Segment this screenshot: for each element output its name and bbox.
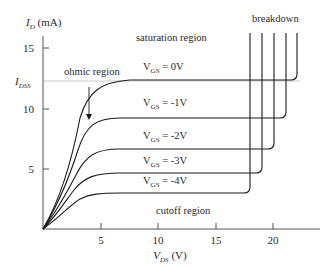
x-axis-title: VDS (V)	[153, 249, 187, 264]
breakdown-label: breakdown	[252, 13, 299, 24]
idss-label: IDSS	[14, 75, 31, 90]
x-ticks	[101, 223, 273, 229]
jfet-characteristic-chart: 5 10 15 20 5 10 15 ID (mA) VDS (V) IDSS …	[0, 0, 331, 267]
curve-vgs-minus-3	[43, 33, 262, 229]
x-tick-label: 10	[153, 234, 165, 246]
arrow-down-icon	[86, 114, 92, 120]
saturation-region-label: saturation region	[136, 32, 208, 43]
y-tick-label: 10	[23, 103, 35, 115]
x-tick-label: 20	[268, 234, 280, 246]
vgs-label-0: VGS = 0V	[143, 61, 184, 75]
vgs-label-minus-2: VGS = -2V	[143, 130, 187, 144]
y-ticks	[43, 48, 49, 169]
ohmic-region-label: ohmic region	[64, 66, 120, 77]
vgs-label-minus-1: VGS = -1V	[143, 97, 187, 111]
vgs-label-minus-4: VGS = -4V	[143, 175, 187, 189]
x-tick-label: 5	[98, 234, 104, 246]
y-tick-label: 15	[23, 42, 35, 54]
vgs-label-minus-3: VGS = -3V	[143, 155, 187, 169]
cutoff-region-label: cutoff region	[156, 205, 211, 216]
y-tick-label: 5	[29, 163, 35, 175]
y-axis-title: ID (mA)	[25, 16, 62, 31]
x-tick-label: 15	[211, 234, 223, 246]
